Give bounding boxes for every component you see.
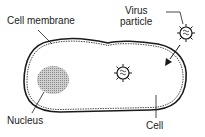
entry-arrow — [170, 45, 180, 59]
arrow-head-icon — [165, 58, 172, 66]
virus-particle-outside — [177, 24, 195, 42]
virus-particle-inside — [114, 64, 132, 82]
nucleus — [37, 66, 69, 94]
label-nucleus: Nucleus — [7, 115, 43, 126]
label-cell: Cell — [146, 120, 163, 131]
virus-leader — [166, 12, 183, 24]
label-virus: Virus — [125, 5, 148, 16]
label-cell-membrane: Cell membrane — [7, 15, 75, 26]
label-particle: particle — [120, 16, 152, 27]
